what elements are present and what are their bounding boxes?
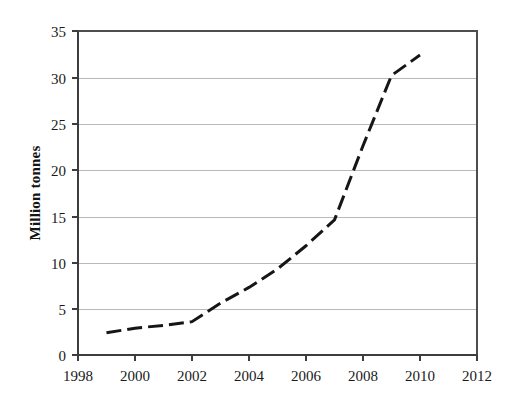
y-axis-title: Million tonnes — [27, 146, 43, 241]
gridlines-horizontal — [78, 78, 477, 309]
x-tick-label-2012: 2012 — [462, 368, 492, 384]
plot-area-frame — [78, 31, 477, 355]
y-tick-label-5: 5 — [59, 302, 67, 318]
data-series-line — [107, 55, 421, 333]
x-tick-label-2008: 2008 — [348, 368, 378, 384]
y-tick-label-0: 0 — [59, 348, 67, 364]
x-tick-label-1998: 1998 — [63, 368, 93, 384]
x-tick-label-2006: 2006 — [291, 368, 322, 384]
chart-container: 35 30 25 20 15 10 5 0 1998 2000 2002 200… — [0, 0, 518, 398]
y-tick-label-10: 10 — [51, 256, 66, 272]
line-chart: 35 30 25 20 15 10 5 0 1998 2000 2002 200… — [0, 0, 518, 398]
y-tick-label-20: 20 — [51, 163, 66, 179]
x-tick-label-2002: 2002 — [177, 368, 207, 384]
x-axis-ticks — [78, 355, 477, 361]
y-axis-ticks — [72, 31, 78, 355]
x-axis-tick-labels: 1998 2000 2002 2004 2006 2008 2010 2012 — [63, 368, 492, 384]
y-tick-label-35: 35 — [51, 24, 66, 40]
y-tick-label-25: 25 — [51, 117, 66, 133]
y-tick-label-15: 15 — [51, 210, 66, 226]
y-tick-label-30: 30 — [51, 71, 66, 87]
x-tick-label-2004: 2004 — [234, 368, 265, 384]
y-axis-tick-labels: 35 30 25 20 15 10 5 0 — [51, 24, 66, 364]
x-tick-label-2000: 2000 — [120, 368, 150, 384]
x-tick-label-2010: 2010 — [405, 368, 435, 384]
